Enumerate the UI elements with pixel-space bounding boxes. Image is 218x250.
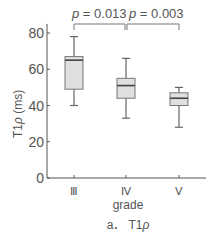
x-axis-label: grade (113, 198, 144, 212)
p-value-label-2: p = 0.003 (128, 6, 184, 21)
y-tick-label: 40 (28, 98, 44, 114)
bracket-2 (127, 24, 179, 30)
iqr-box (117, 78, 135, 98)
x-tick-label: Ⅴ (175, 185, 183, 197)
x-tick-label: Ⅳ (121, 185, 132, 197)
bracket-1 (74, 24, 125, 30)
y-tick-label: 20 (28, 134, 44, 150)
iqr-box (170, 93, 188, 106)
box-2 (117, 58, 135, 118)
y-tick-label: 80 (28, 25, 44, 41)
y-axis-label: T1ρ (ms) (11, 90, 25, 138)
box-plot-chart: 020406080ⅢⅣⅤ p = 0.013 p = 0.003 T1ρ (ms… (0, 0, 218, 250)
box-1 (65, 37, 83, 106)
iqr-box (65, 57, 83, 90)
boxes (65, 37, 188, 128)
significance-brackets (74, 24, 179, 30)
y-tick-label: 60 (28, 61, 44, 77)
figure-caption: a． T1ρ (107, 218, 150, 232)
box-3 (170, 87, 188, 127)
y-tick-label: 0 (36, 170, 44, 186)
x-tick-label: Ⅲ (70, 185, 78, 197)
p-value-label-1: p = 0.013 (71, 6, 127, 21)
